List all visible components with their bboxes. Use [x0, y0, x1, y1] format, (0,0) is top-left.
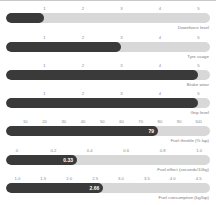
- gauge-tick-labels: 102030405060708090100: [6, 118, 210, 126]
- tick-label: 1.0: [196, 147, 202, 155]
- gauge-tyre-usage: 12345Tyre usage: [6, 34, 210, 62]
- tick-label: 1: [43, 90, 45, 98]
- tick-label: 1.0: [14, 175, 20, 183]
- tick-label: 2: [82, 90, 84, 98]
- tick-label: 3.5: [144, 175, 150, 183]
- gauge-value-label: 79: [148, 126, 158, 136]
- tick-label: 1: [43, 62, 45, 70]
- gauge-track[interactable]: 79: [6, 126, 210, 136]
- gauge-fill: [6, 126, 158, 136]
- gauge-fill: [6, 70, 198, 80]
- gauge-tick-labels: 00.20.40.60.81.0: [6, 147, 210, 155]
- tick-label: 4.0: [170, 175, 176, 183]
- gauge-caption: Brake wear: [6, 80, 210, 89]
- tick-label: 2: [82, 62, 84, 70]
- tick-label: 2: [82, 34, 84, 42]
- tick-label: 5: [197, 90, 199, 98]
- gauge-brake-wear: 12345Brake wear: [6, 62, 210, 90]
- tick-label: 5: [197, 34, 199, 42]
- tick-label: 0: [16, 147, 18, 155]
- tick-label: 3.0: [118, 175, 124, 183]
- gauge-track[interactable]: [6, 98, 210, 108]
- gauge-downforce-level: 12345Downforce level: [6, 5, 210, 33]
- tick-label: 4: [159, 5, 161, 13]
- gauge-track[interactable]: [6, 13, 210, 23]
- gauge-caption: Fuel consumption (kg/lap): [6, 193, 210, 202]
- tick-label: 5: [197, 62, 199, 70]
- gauge-fuel-consumption: 1.01.52.02.53.03.54.04.52.66Fuel consump…: [6, 175, 210, 203]
- tick-label: 100: [195, 118, 202, 126]
- gauge-fuel-effect: 00.20.40.60.81.00.33Fuel effect (seconds…: [6, 147, 210, 175]
- gauge-tick-labels: 12345: [6, 5, 210, 13]
- tick-label: 4.5: [196, 175, 202, 183]
- gauge-fill: [6, 98, 198, 108]
- gauge-value-label: 0.33: [63, 155, 77, 165]
- gauge-tick-labels: 12345: [6, 34, 210, 42]
- tick-label: 3: [120, 90, 122, 98]
- gauge-caption: Tyre usage: [6, 52, 210, 61]
- gauge-fill: [6, 42, 121, 52]
- gauge-caption: Fuel throttle (% lap): [6, 136, 210, 145]
- gauge-track[interactable]: [6, 42, 210, 52]
- tick-label: 1: [43, 5, 45, 13]
- tick-label: 50: [100, 118, 105, 126]
- gauge-panel: 12345Downforce level12345Tyre usage12345…: [0, 0, 216, 205]
- tick-label: 5: [197, 5, 199, 13]
- tick-label: 1: [43, 34, 45, 42]
- tick-label: 4: [159, 34, 161, 42]
- gauge-value-label: 2.66: [90, 183, 104, 193]
- tick-label: 3: [120, 34, 122, 42]
- tick-label: 4: [159, 90, 161, 98]
- tick-label: 1.5: [40, 175, 46, 183]
- gauge-fuel-throttle: 10203040506070809010079Fuel throttle (% …: [6, 118, 210, 146]
- gauge-caption: Fuel effect (seconds/10kg): [6, 165, 210, 174]
- tick-label: 20: [42, 118, 47, 126]
- tick-label: 70: [138, 118, 143, 126]
- gauge-tick-labels: 1.01.52.02.53.03.54.04.5: [6, 175, 210, 183]
- tick-label: 0.6: [123, 147, 129, 155]
- tick-label: 30: [61, 118, 66, 126]
- tick-label: 0.8: [160, 147, 166, 155]
- tick-label: 0.4: [87, 147, 93, 155]
- gauge-tick-labels: 12345: [6, 62, 210, 70]
- tick-label: 40: [81, 118, 86, 126]
- tick-label: 60: [119, 118, 124, 126]
- tick-label: 2.5: [92, 175, 98, 183]
- tick-label: 10: [23, 118, 28, 126]
- gauge-caption: Downforce level: [6, 23, 210, 32]
- gauge-track[interactable]: 2.66: [6, 183, 210, 193]
- gauge-track[interactable]: [6, 70, 210, 80]
- gauge-track[interactable]: 0.33: [6, 155, 210, 165]
- tick-label: 2: [82, 5, 84, 13]
- tick-label: 2.0: [66, 175, 72, 183]
- tick-label: 3: [120, 62, 122, 70]
- tick-label: 4: [159, 62, 161, 70]
- gauge-grip-level: 12345Grip level: [6, 90, 210, 118]
- gauge-list: 12345Downforce level12345Tyre usage12345…: [6, 1, 210, 203]
- gauge-caption: Grip level: [6, 108, 210, 117]
- gauge-fill: [6, 13, 44, 23]
- tick-label: 0.2: [50, 147, 56, 155]
- tick-label: 80: [158, 118, 163, 126]
- tick-label: 90: [177, 118, 182, 126]
- gauge-tick-labels: 12345: [6, 90, 210, 98]
- tick-label: 3: [120, 5, 122, 13]
